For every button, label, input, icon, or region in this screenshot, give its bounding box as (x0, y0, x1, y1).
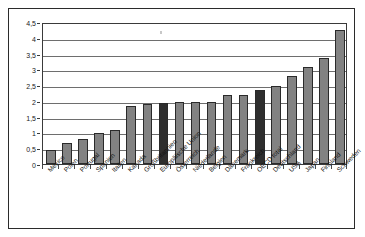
bars-layer (43, 24, 346, 164)
y-tick-label: 4 (32, 35, 36, 42)
y-tick-label: 3 (32, 67, 36, 74)
scan-artifact-speck (160, 31, 162, 34)
plot-area (42, 23, 347, 165)
bar-kanada (126, 106, 136, 164)
bar-finnland (319, 58, 329, 164)
y-tick-label: 3,5 (26, 51, 36, 58)
y-tick-mark (37, 55, 40, 56)
y-tick-mark (37, 133, 40, 134)
y-tick-mark (37, 86, 40, 87)
x-axis-labels: MexicoPolenPortugalSpanienItalienKanadaG… (42, 169, 347, 227)
y-tick-mark (37, 118, 40, 119)
y-tick-mark (37, 149, 40, 150)
bar-schweden (335, 30, 345, 164)
y-tick-label: 4,5 (26, 20, 36, 27)
y-tick-label: 1 (32, 130, 36, 137)
y-tick-label: 1,5 (26, 114, 36, 121)
y-tick-mark (37, 23, 40, 24)
y-tick-label: 2 (32, 98, 36, 105)
y-axis: 00,511,522,533,544,5 (9, 23, 40, 165)
y-tick-mark (37, 70, 40, 71)
y-tick-mark (37, 165, 40, 166)
bar-japan (303, 67, 313, 164)
y-tick-mark (37, 102, 40, 103)
y-tick-label: 0 (32, 162, 36, 169)
y-tick-mark (37, 39, 40, 40)
y-tick-label: 2,5 (26, 83, 36, 90)
chart-frame: 00,511,522,533,544,5 MexicoPolenPortugal… (8, 8, 355, 229)
y-tick-label: 0,5 (26, 146, 36, 153)
